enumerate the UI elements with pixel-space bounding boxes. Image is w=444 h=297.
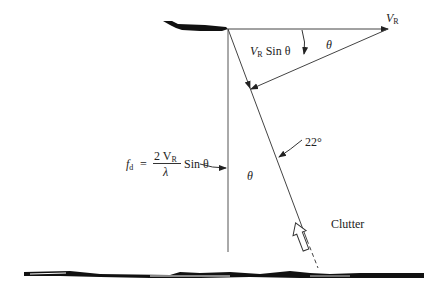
clutter-label: Clutter [331, 218, 364, 230]
aircraft-icon [163, 21, 228, 31]
line-of-sight [228, 29, 250, 88]
clutter-arrow-icon [289, 220, 312, 252]
angle-theta-top: θ [326, 39, 332, 51]
perpendicular-component [251, 29, 388, 89]
velocity-label: VR [386, 12, 399, 26]
component-label: VR Sin θ [250, 45, 290, 59]
angle-theta-mid: θ [247, 170, 253, 182]
angle-arc-top [302, 30, 305, 54]
ground-surface [24, 271, 424, 278]
angle-pointer-22 [279, 140, 302, 157]
depression-angle-label: 22° [305, 136, 322, 148]
diagram-canvas [0, 0, 444, 297]
